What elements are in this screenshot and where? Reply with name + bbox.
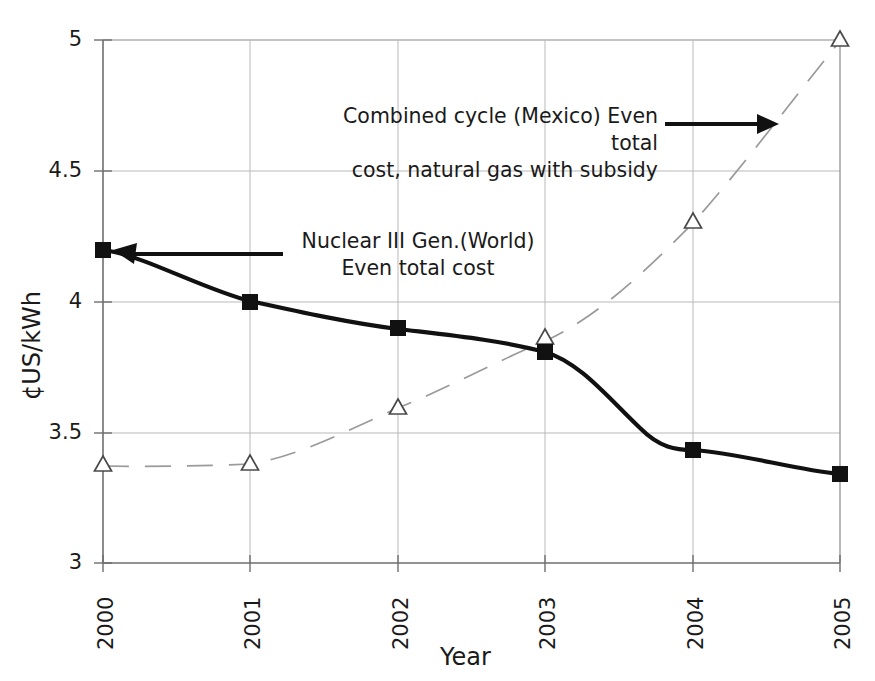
- y-axis-title: ¢US/kWh: [20, 291, 44, 400]
- x-tick-label-2000: 2000: [96, 597, 117, 650]
- x-axis-title: Year: [440, 645, 491, 669]
- nuclear-annotation-text: Nuclear III Gen.(World) Even total cost: [292, 228, 544, 282]
- series-nuclear-iii-gen: [103, 250, 840, 474]
- y-tick-label-5: 5: [34, 29, 82, 50]
- gas-annotation-text: Combined cycle (Mexico) Even total cost,…: [308, 103, 658, 184]
- chart-figure: 5 4.5 4 3.5 3 2000 2001 2002 2003 2004 2…: [0, 0, 875, 681]
- y-tick-label-3: 3: [34, 552, 82, 573]
- y-tick-label-3-5: 3.5: [14, 422, 82, 443]
- x-tick-label-2001: 2001: [243, 597, 264, 650]
- y-tick-label-4-5: 4.5: [14, 160, 82, 181]
- x-tick-label-2002: 2002: [391, 597, 412, 650]
- gas-annotation-arrow: [665, 114, 779, 134]
- x-tick-label-2005: 2005: [833, 597, 854, 650]
- x-tick-label-2003: 2003: [538, 597, 559, 650]
- x-tick-label-2004: 2004: [686, 597, 707, 650]
